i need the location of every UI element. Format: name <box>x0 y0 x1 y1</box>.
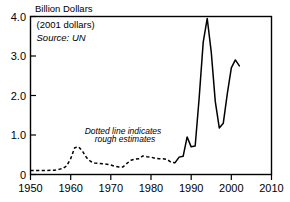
chart-axis-title: Billion Dollars <box>35 3 93 14</box>
x-axis-ticks <box>31 175 272 181</box>
x-tick-label: 2010 <box>259 182 283 194</box>
x-tick-label: 1980 <box>139 182 163 194</box>
y-tick-label: 2.0 <box>11 90 26 102</box>
y-axis-labels: 0 1.0 2.0 3.0 4.0 <box>11 11 26 181</box>
x-tick-label: 1990 <box>179 182 203 194</box>
y-tick-label: 4.0 <box>11 11 26 23</box>
x-tick-label: 1970 <box>99 182 123 194</box>
x-axis-labels: 1950 1960 1970 1980 1990 2000 2010 <box>18 182 283 194</box>
series-reported-values <box>175 18 239 162</box>
annotation-currency-note: (2001 dollars) <box>37 19 95 30</box>
x-tick-label: 2000 <box>219 182 243 194</box>
annotation-source-note: Source: UN <box>37 32 86 43</box>
line-chart: Billion Dollars 0 1.0 2.0 3.0 4. <box>0 0 290 202</box>
x-tick-label: 1950 <box>18 182 42 194</box>
y-tick-label: 0 <box>20 169 26 181</box>
annotation-dotted-line-note-line2: rough estimates <box>95 134 156 144</box>
series-rough-estimates <box>31 147 176 171</box>
chart-container: Billion Dollars 0 1.0 2.0 3.0 4. <box>0 0 290 202</box>
y-axis-ticks <box>31 17 37 175</box>
y-tick-label: 1.0 <box>11 129 26 141</box>
x-tick-label: 1960 <box>58 182 82 194</box>
y-tick-label: 3.0 <box>11 50 26 62</box>
